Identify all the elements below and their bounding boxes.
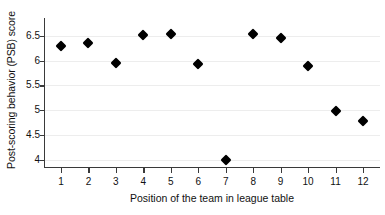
x-axis-tick-mark [88, 168, 89, 173]
gridline-horizontal [45, 36, 380, 37]
x-axis-title: Position of the team in league table [44, 192, 380, 204]
gridline-horizontal [45, 85, 380, 86]
x-axis-tick-mark [281, 168, 282, 173]
x-axis-tick-mark [116, 168, 117, 173]
data-point [302, 60, 313, 71]
x-axis-tick-label: 6 [186, 176, 210, 187]
y-axis-tick-mark [40, 160, 45, 161]
data-point [165, 29, 176, 40]
data-point [330, 105, 341, 116]
x-axis-tick-mark [198, 168, 199, 173]
data-point [55, 41, 66, 52]
y-axis-tick-mark [40, 61, 45, 62]
y-axis-tick-mark [40, 135, 45, 136]
x-axis-tick-mark [336, 168, 337, 173]
y-axis-tick-mark [40, 36, 45, 37]
x-axis-tick-label: 1 [49, 176, 73, 187]
x-axis-tick-mark [171, 168, 172, 173]
data-point [138, 30, 149, 41]
x-axis-tick-label: 2 [76, 176, 100, 187]
data-point [110, 57, 121, 68]
x-axis-tick-label: 7 [214, 176, 238, 187]
data-point [248, 29, 259, 40]
y-axis-tick-label: 5 [20, 105, 40, 115]
x-axis-line [44, 167, 380, 168]
data-point [357, 115, 368, 126]
x-axis-tick-label: 4 [131, 176, 155, 187]
data-point [220, 154, 231, 165]
y-axis-line [44, 18, 45, 168]
x-axis-tick-label: 8 [241, 176, 265, 187]
x-axis-tick-label: 5 [159, 176, 183, 187]
x-axis-tick-label: 9 [269, 176, 293, 187]
data-point [275, 33, 286, 44]
y-axis-tick-label: 6 [20, 56, 40, 66]
gridline-horizontal [45, 135, 380, 136]
scatter-chart-figure: Post-scoring behavior (PSB) score 44.555… [0, 0, 385, 215]
data-point [83, 37, 94, 48]
y-axis-tick-mark [40, 110, 45, 111]
plot-area: 123456789101112 [44, 8, 380, 168]
y-axis-tick-label: 4.5 [20, 130, 40, 140]
y-axis-tick-label: 5.5 [20, 80, 40, 90]
x-axis-tick-mark [308, 168, 309, 173]
gridline-horizontal [45, 160, 380, 161]
x-axis-tick-mark [61, 168, 62, 173]
x-axis-tick-label: 12 [351, 176, 375, 187]
y-axis-tick-mark [40, 85, 45, 86]
x-axis-tick-label: 10 [296, 176, 320, 187]
gridline-horizontal [45, 61, 380, 62]
x-axis-tick-mark [226, 168, 227, 173]
x-axis-tick-mark [363, 168, 364, 173]
y-axis-tick-labels: 44.555.566.5 [16, 0, 40, 215]
y-axis-tick-label: 6.5 [20, 31, 40, 41]
x-axis-tick-mark [143, 168, 144, 173]
x-axis-tick-mark [253, 168, 254, 173]
x-axis-tick-label: 3 [104, 176, 128, 187]
y-axis-tick-label: 4 [20, 155, 40, 165]
x-axis-tick-label: 11 [324, 176, 348, 187]
